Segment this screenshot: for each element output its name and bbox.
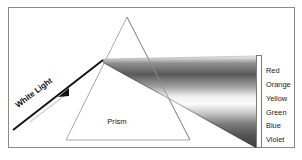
spectrum-color-label-yellow: Yellow [266, 94, 288, 103]
prism-dispersion-figure: White Light Prism Red Orange Yellow Gree… [0, 0, 302, 160]
spectrum-color-label-blue: Blue [266, 121, 281, 130]
spectrum-color-label-green: Green [266, 108, 287, 117]
spectrum-color-label-violet: Violet [266, 135, 284, 144]
spectrum-screen-bracket [257, 56, 262, 148]
prism-label: Prism [107, 117, 126, 126]
spectrum-color-label-orange: Orange [266, 80, 291, 89]
prism-diagram-canvas: White Light Prism Red Orange Yellow Gree… [0, 0, 302, 160]
spectrum-color-label-red: Red [266, 66, 280, 75]
